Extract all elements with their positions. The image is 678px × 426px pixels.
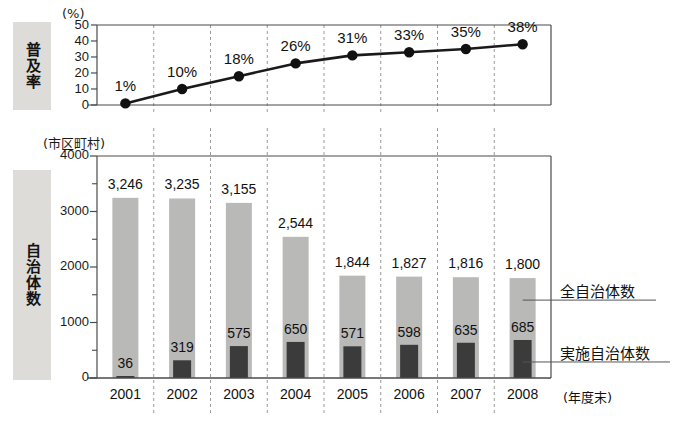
- year-label-2001: 2001: [95, 386, 155, 402]
- top-ytick-10: 10: [45, 81, 89, 96]
- penetration-label-2006: 33%: [379, 26, 439, 43]
- total-bar-label-2002: 3,235: [152, 176, 212, 192]
- legend-label-implementing-municipalities: 実施自治体数: [560, 342, 650, 363]
- top-ytick-30: 30: [45, 49, 89, 64]
- total-bar-label-2001: 3,246: [95, 176, 155, 192]
- implementing-bar-label-2006: 598: [379, 324, 439, 340]
- penetration-label-2008: 38%: [493, 18, 553, 35]
- year-label-2005: 2005: [322, 386, 382, 402]
- year-label-2008: 2008: [493, 386, 553, 402]
- implementing-bar-label-2002: 319: [152, 339, 212, 355]
- top-ytick-0: 0: [45, 97, 89, 112]
- x-axis-suffix-label: (年度末): [563, 387, 612, 406]
- bottom-ytick-0: 0: [37, 369, 89, 384]
- total-bar-label-2005: 1,844: [322, 254, 382, 270]
- implementing-bar-label-2003: 575: [209, 325, 269, 341]
- implementing-bar-label-2001: 36: [95, 355, 155, 371]
- year-label-2004: 2004: [266, 386, 326, 402]
- year-label-2007: 2007: [436, 386, 496, 402]
- top-ytick-50: 50: [45, 17, 89, 32]
- implementing-bar-label-2005: 571: [322, 325, 382, 341]
- total-bar-label-2003: 3,155: [209, 181, 269, 197]
- penetration-label-2002: 10%: [152, 63, 212, 80]
- implementing-bar-label-2007: 635: [436, 322, 496, 338]
- penetration-label-2007: 35%: [436, 23, 496, 40]
- year-label-2002: 2002: [152, 386, 212, 402]
- penetration-label-2003: 18%: [209, 50, 269, 67]
- year-label-2006: 2006: [379, 386, 439, 402]
- year-label-2003: 2003: [209, 386, 269, 402]
- total-bar-label-2008: 1,800: [493, 256, 553, 272]
- top-ytick-40: 40: [45, 33, 89, 48]
- top-ytick-20: 20: [45, 65, 89, 80]
- total-bar-label-2004: 2,544: [266, 215, 326, 231]
- bottom-ytick-3000: 3000: [37, 203, 89, 218]
- penetration-label-2005: 31%: [322, 29, 382, 46]
- penetration-label-2001: 1%: [95, 77, 155, 94]
- total-bar-label-2007: 1,816: [436, 255, 496, 271]
- legend-label-total-municipalities: 全自治体数: [560, 280, 635, 301]
- total-bar-label-2006: 1,827: [379, 255, 439, 271]
- implementing-bar-label-2004: 650: [266, 321, 326, 337]
- bottom-ytick-4000: 4000: [37, 147, 89, 162]
- penetration-label-2004: 26%: [266, 37, 326, 54]
- bottom-ytick-2000: 2000: [37, 258, 89, 273]
- bottom-ytick-1000: 1000: [37, 314, 89, 329]
- chart-figure: 普及率 自治体数 (%) (市区町村) 01020304050 1%10%18%…: [0, 0, 678, 426]
- implementing-bar-label-2008: 685: [493, 319, 553, 335]
